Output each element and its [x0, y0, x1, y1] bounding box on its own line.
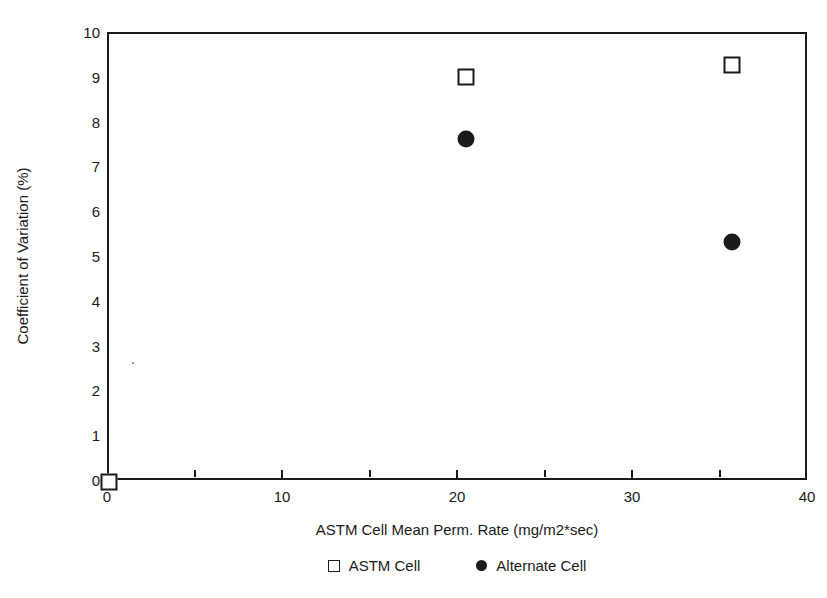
- y-axis-tick-label: 6: [92, 204, 100, 219]
- x-axis-tick-label: 10: [274, 486, 291, 508]
- x-axis-tick-mark: [631, 470, 633, 480]
- y-axis-tick-label: 5: [92, 249, 100, 264]
- filled-circle-icon: [476, 560, 487, 571]
- y-axis-tick-label: 8: [92, 114, 100, 129]
- legend-label: ASTM Cell: [349, 558, 421, 573]
- y-axis-tick-labels: 012345678910: [58, 32, 100, 480]
- legend-item: ASTM Cell: [328, 558, 421, 573]
- legend-item: Alternate Cell: [476, 558, 586, 573]
- x-axis-tick-label: 40: [799, 486, 816, 508]
- x-axis-minor-tick-mark: [369, 470, 371, 477]
- plot-area: [107, 32, 807, 480]
- x-axis-tick-mark: [281, 470, 283, 480]
- x-axis-minor-tick-mark: [194, 470, 196, 477]
- y-axis-tick-label: 3: [92, 338, 100, 353]
- y-axis-tick-label: 7: [92, 159, 100, 174]
- y-axis-tick-label: 9: [92, 69, 100, 84]
- x-axis-tick-mark: [456, 470, 458, 480]
- legend-label: Alternate Cell: [496, 558, 586, 573]
- scatter-plot-figure: Coefficient of Variation (%) 01234567891…: [0, 0, 827, 598]
- x-axis-tick-labels: 010203040: [107, 486, 807, 508]
- data-point-astm-cell: [724, 57, 741, 74]
- scan-speck: [132, 362, 134, 364]
- open-square-icon: [328, 560, 340, 572]
- x-axis-tick-label: 0: [103, 486, 111, 508]
- y-axis-tick-label: 10: [83, 25, 100, 40]
- x-axis-minor-tick-mark: [544, 470, 546, 477]
- x-axis-tick-label: 30: [624, 486, 641, 508]
- x-axis-title: ASTM Cell Mean Perm. Rate (mg/m2*sec): [107, 521, 807, 538]
- x-axis-tick-marks: [107, 470, 807, 482]
- x-axis-minor-tick-mark: [719, 470, 721, 477]
- data-point-astm-cell: [458, 68, 475, 85]
- y-axis-tick-label: 1: [92, 428, 100, 443]
- y-axis-title: Coefficient of Variation (%): [10, 32, 36, 480]
- data-point-alternate-cell: [724, 234, 741, 251]
- data-point-alternate-cell: [458, 131, 475, 148]
- y-axis-tick-label: 0: [92, 473, 100, 488]
- y-axis-tick-label: 2: [92, 383, 100, 398]
- y-axis-tick-label: 4: [92, 293, 100, 308]
- chart-legend: ASTM CellAlternate Cell: [107, 558, 807, 573]
- x-axis-tick-label: 20: [449, 486, 466, 508]
